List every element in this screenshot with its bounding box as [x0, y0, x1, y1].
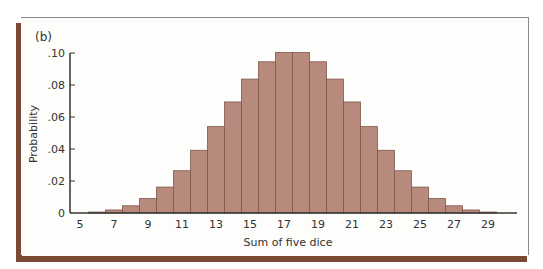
x-tick-label: 21: [345, 218, 359, 231]
y-tick-label: .02: [48, 175, 66, 188]
y-tick-label: .04: [48, 143, 66, 156]
y-tick-label: .08: [48, 79, 66, 92]
bar-sum-22: [361, 127, 378, 213]
histogram-chart: 0.02.04.06.08.1057911131517192123252729: [0, 0, 543, 269]
y-tick-label: 0: [58, 207, 65, 220]
bar-sum-11: [174, 171, 191, 213]
y-tick-label: .10: [48, 47, 66, 60]
y-tick-label: .06: [48, 111, 66, 124]
x-tick-label: 9: [145, 218, 152, 231]
panel-label: (b): [35, 30, 52, 44]
x-tick-label: 15: [243, 218, 257, 231]
x-tick-label: 5: [77, 218, 84, 231]
x-tick-label: 27: [447, 218, 461, 231]
bars-group: [89, 53, 497, 213]
bar-sum-23: [378, 150, 395, 213]
bar-sum-26: [429, 199, 446, 213]
bar-sum-13: [208, 127, 225, 213]
bar-sum-25: [412, 187, 429, 213]
x-tick-label: 13: [209, 218, 223, 231]
bar-sum-19: [310, 62, 327, 213]
bar-sum-21: [344, 102, 361, 213]
bar-sum-12: [191, 150, 208, 213]
bar-sum-16: [259, 62, 276, 213]
x-axis-label: Sum of five dice: [244, 236, 333, 249]
y-axis-label: Probability: [27, 105, 40, 163]
x-tick-label: 19: [311, 218, 325, 231]
x-tick-label: 7: [111, 218, 118, 231]
x-tick-label: 17: [277, 218, 291, 231]
bar-sum-20: [327, 79, 344, 213]
bar-sum-8: [123, 206, 140, 213]
bar-sum-10: [157, 187, 174, 213]
x-tick-label: 11: [175, 218, 189, 231]
bar-sum-27: [446, 206, 463, 213]
bar-sum-9: [140, 199, 157, 213]
x-tick-label: 25: [413, 218, 427, 231]
bar-sum-14: [225, 102, 242, 213]
bar-sum-24: [395, 171, 412, 213]
bar-sum-18: [293, 53, 310, 213]
x-tick-label: 29: [481, 218, 495, 231]
bar-sum-15: [242, 79, 259, 213]
x-tick-label: 23: [379, 218, 393, 231]
bar-sum-17: [276, 53, 293, 213]
